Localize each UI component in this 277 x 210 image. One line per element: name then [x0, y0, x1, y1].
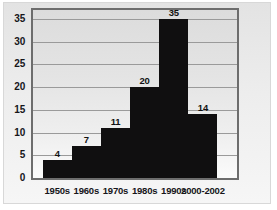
bar	[188, 114, 217, 178]
x-axis-tick-labels: 1950s1960s1970s1980s1990s2000-2002	[31, 185, 239, 203]
bar-value-label: 35	[153, 7, 194, 18]
bar-value-label: 20	[124, 75, 165, 86]
bar-value-label: 11	[95, 116, 136, 127]
y-axis-tick-label: 30	[14, 37, 25, 47]
bar	[159, 19, 188, 178]
bar-value-label: 14	[182, 102, 223, 113]
y-axis-tick-label: 0	[20, 173, 25, 183]
y-axis-tick-label: 35	[14, 14, 25, 24]
x-axis-tick-label: 2000-2002	[176, 185, 229, 197]
y-axis-tick-label: 25	[14, 59, 25, 69]
y-axis-tick-labels: 05101520253035	[0, 8, 28, 180]
y-axis-tick-label: 10	[14, 128, 25, 138]
bar	[130, 87, 159, 178]
bar-value-label: 4	[37, 148, 78, 159]
y-axis-tick-label: 5	[20, 150, 25, 160]
y-axis-tick-label: 15	[14, 105, 25, 115]
bar-value-label: 7	[66, 134, 107, 145]
y-axis-tick-label: 20	[14, 82, 25, 92]
bar-chart: 05101520253035 1950s1960s1970s1980s1990s…	[0, 0, 277, 210]
bar	[43, 160, 72, 178]
